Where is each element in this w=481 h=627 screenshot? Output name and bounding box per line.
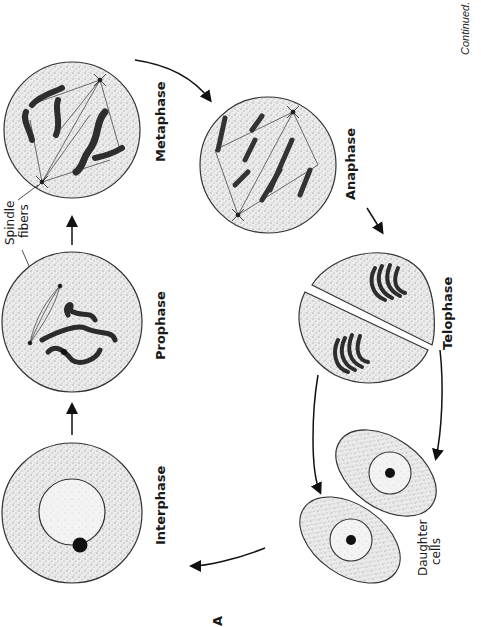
arrow-icon: [192, 548, 265, 566]
spindle-label-line1: Spindle: [3, 200, 17, 245]
anaphase-cell: [200, 97, 336, 233]
continued-note: Continued.: [459, 2, 471, 55]
anaphase-label: Anaphase: [343, 128, 358, 200]
panel-label: A: [210, 616, 225, 626]
daughter-label-line2: cells: [429, 538, 443, 565]
daughter-label-line1: Daughter: [416, 519, 430, 576]
metaphase-cell: [4, 62, 140, 198]
spindle-label-line2: fibers: [17, 204, 31, 238]
telophase-label: Telophase: [440, 277, 455, 350]
arrow-icon: [367, 208, 382, 232]
interphase-cell: [2, 443, 142, 583]
arrow-icon: [313, 375, 320, 492]
prophase-label: Prophase: [153, 291, 168, 360]
nucleolus: [73, 538, 88, 553]
interphase-label: Interphase: [153, 465, 168, 545]
prophase-cell: [2, 252, 142, 392]
metaphase-label: Metaphase: [153, 81, 168, 162]
mitosis-diagram: Metaphase Spindle fibers Anaphase: [0, 0, 481, 627]
arrow-icon: [135, 60, 210, 100]
telophase-cell: [299, 253, 434, 383]
arrow-icon: [436, 350, 442, 458]
